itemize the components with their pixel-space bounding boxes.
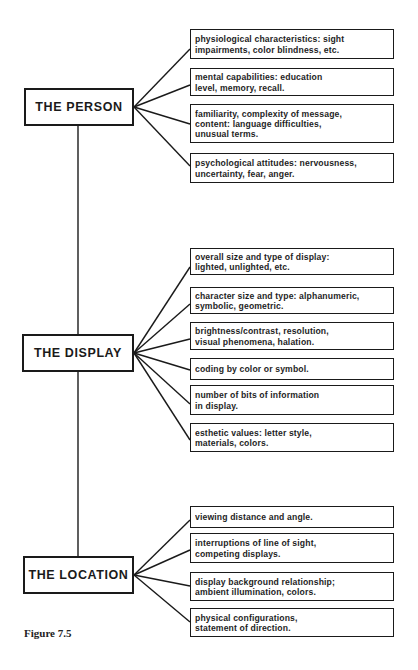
person-label: THE PERSON [35,100,122,114]
item-text: coding by color or symbol. [195,364,373,374]
location-item-background: display background relationship; ambient… [190,572,394,601]
person-item-familiarity: familiarity, complexity of message, cont… [190,104,394,143]
item-text: interruptions of line of sight, competin… [195,538,373,558]
location-item-interruptions: interruptions of line of sight, competin… [190,533,394,563]
display-label: THE DISPLAY [34,346,122,360]
item-text: brightness/contrast, resolution, visual … [195,326,373,346]
display-box: THE DISPLAY [22,334,134,372]
item-text: physiological characteristics: sight imp… [195,34,373,54]
person-box: THE PERSON [24,88,134,126]
display-item-character-size: character size and type: alphanumeric, s… [190,287,394,314]
item-text: character size and type: alphanumeric, s… [195,291,373,311]
location-label: THE LOCATION [28,568,128,582]
factor-diagram: THE PERSON physiological characteristics… [0,0,418,670]
display-item-overall-size: overall size and type of display: lighte… [190,248,394,275]
item-text: mental capabilities: education level, me… [195,72,373,92]
location-item-physical: physical configurations, statement of di… [190,608,394,637]
item-text: familiarity, complexity of message, cont… [195,109,373,140]
display-item-esthetic: esthetic values: letter style, materials… [190,423,394,452]
item-text: viewing distance and angle. [195,512,373,522]
person-item-physiological: physiological characteristics: sight imp… [190,29,394,59]
location-box: THE LOCATION [23,556,134,594]
display-item-bits: number of bits of information in display… [190,385,394,415]
person-item-mental: mental capabilities: education level, me… [190,68,394,96]
display-item-coding: coding by color or symbol. [190,358,394,380]
display-item-brightness: brightness/contrast, resolution, visual … [190,322,394,350]
item-text: esthetic values: letter style, materials… [195,428,373,448]
item-text: display background relationship; ambient… [195,577,373,597]
figure-caption: Figure 7.5 [24,627,71,639]
person-item-psychological: psychological attitudes: nervousness, un… [190,153,394,183]
item-text: overall size and type of display: lighte… [195,252,373,272]
item-text: number of bits of information in display… [195,390,373,410]
item-text: psychological attitudes: nervousness, un… [195,158,373,178]
location-item-viewing: viewing distance and angle. [190,506,394,528]
item-text: physical configurations, statement of di… [195,613,373,633]
